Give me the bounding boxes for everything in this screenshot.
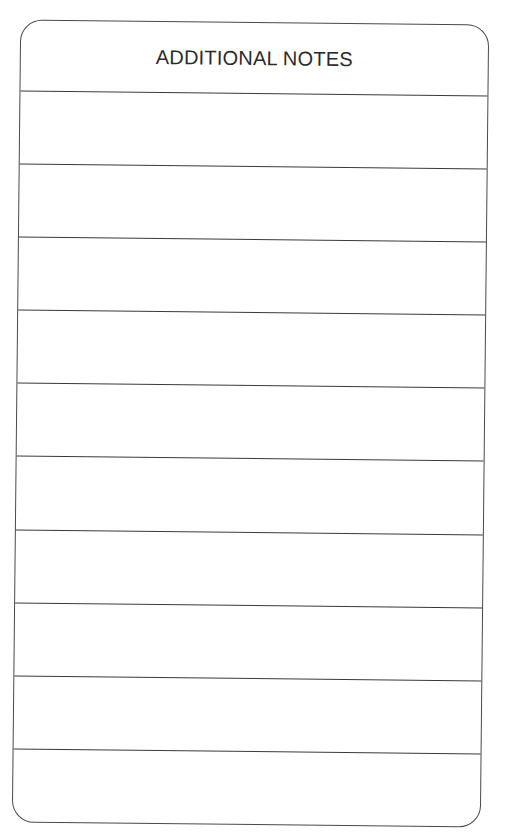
notes-title: ADDITIONAL NOTES	[20, 21, 488, 96]
note-line-5	[17, 383, 484, 389]
notes-card: ADDITIONAL NOTES	[12, 20, 489, 828]
note-line-10	[14, 749, 481, 755]
note-line-2	[20, 164, 487, 170]
note-line-7	[16, 530, 483, 536]
note-line-6	[17, 456, 484, 462]
note-line-3	[19, 237, 486, 243]
note-line-8	[15, 603, 482, 609]
note-line-4	[18, 310, 485, 316]
note-line-9	[14, 676, 481, 682]
